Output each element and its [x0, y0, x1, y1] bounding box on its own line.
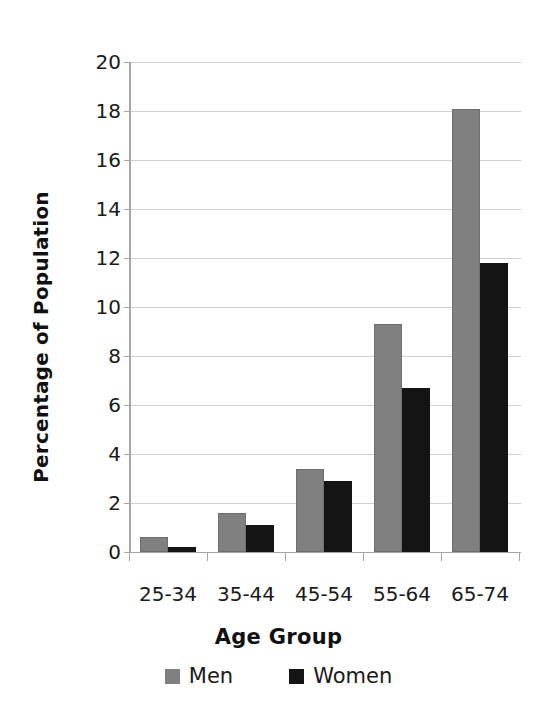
- x-axis-tick-label: 35-44: [207, 582, 285, 608]
- x-axis-tick: [129, 552, 130, 561]
- bar-men-35-44[interactable]: [218, 513, 246, 552]
- y-axis-tick-label: 0: [75, 542, 121, 562]
- x-axis-tick: [363, 552, 364, 561]
- legend-label: Women: [313, 666, 392, 687]
- x-axis-title: Age Group: [0, 625, 557, 649]
- y-axis-tick-label: 18: [75, 101, 121, 121]
- legend-swatch-icon: [165, 669, 180, 684]
- bar-women-55-64[interactable]: [402, 388, 430, 552]
- x-axis-tick: [207, 552, 208, 561]
- legend-item-men[interactable]: Men: [165, 666, 233, 687]
- bar-women-35-44[interactable]: [246, 525, 274, 552]
- legend-label: Men: [189, 666, 233, 687]
- bar-men-45-54[interactable]: [296, 469, 324, 552]
- bar-group: [441, 62, 519, 552]
- y-axis-tick-label: 8: [75, 346, 121, 366]
- bar-men-25-34[interactable]: [140, 537, 168, 552]
- x-axis-tick-labels: 25-3435-4445-5455-6465-74: [129, 582, 519, 608]
- bar-group: [207, 62, 285, 552]
- y-axis-title: Percentage of Population: [29, 172, 53, 502]
- bar-women-45-54[interactable]: [324, 481, 352, 552]
- y-axis-tick-label: 14: [75, 199, 121, 219]
- y-axis-tick-label: 4: [75, 444, 121, 464]
- axis-baseline: [131, 552, 521, 553]
- bar-women-25-34[interactable]: [168, 547, 196, 552]
- legend-swatch-icon: [289, 669, 304, 684]
- y-axis-tick-labels: 20181614121086420: [75, 62, 121, 552]
- y-axis-tick-label: 20: [75, 52, 121, 72]
- bar-women-65-74[interactable]: [480, 263, 508, 552]
- y-axis-tick-label: 16: [75, 150, 121, 170]
- y-axis-tick-label: 2: [75, 493, 121, 513]
- chart-figure: Percentage of Population 201816141210864…: [0, 0, 557, 702]
- y-axis-tick-label: 10: [75, 297, 121, 317]
- bar-men-55-64[interactable]: [374, 324, 402, 552]
- bar-group: [363, 62, 441, 552]
- bar-groups: [129, 62, 519, 552]
- bar-group: [129, 62, 207, 552]
- x-axis-tick-label: 55-64: [363, 582, 441, 608]
- legend-item-women[interactable]: Women: [289, 666, 392, 687]
- y-axis-tick-label: 6: [75, 395, 121, 415]
- bar-men-65-74[interactable]: [452, 109, 480, 552]
- y-axis-tick-label: 12: [75, 248, 121, 268]
- chart-legend: MenWomen: [0, 666, 557, 687]
- x-axis-tick-label: 65-74: [441, 582, 519, 608]
- bar-group: [285, 62, 363, 552]
- x-axis-tick: [285, 552, 286, 561]
- x-axis-tick-label: 25-34: [129, 582, 207, 608]
- x-axis-tick: [519, 552, 520, 561]
- x-axis-tick: [441, 552, 442, 561]
- cut-off-title-remnant: [60, 0, 500, 5]
- x-axis-tick-label: 45-54: [285, 582, 363, 608]
